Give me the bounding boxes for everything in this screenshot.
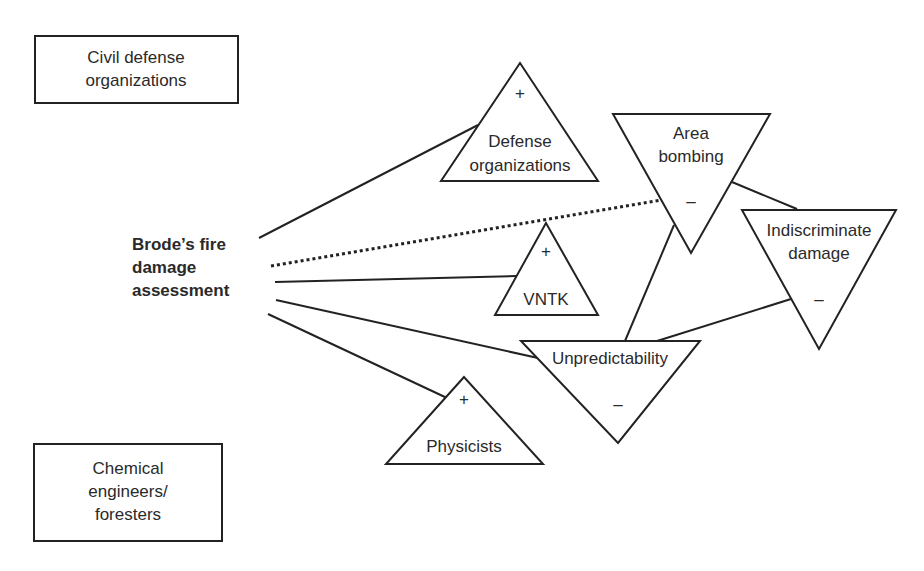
- central-label-line: damage: [132, 258, 196, 277]
- central-label-line: Brode’s fire: [132, 235, 226, 254]
- node-vntk: + VNTK: [495, 223, 598, 315]
- minus-sign-icon: –: [613, 395, 623, 414]
- central-label-line: assessment: [132, 281, 230, 300]
- box-label-line: Chemical: [93, 459, 164, 478]
- plus-sign-icon: +: [515, 84, 525, 103]
- actor-network-diagram: Civil defense organizations Chemical eng…: [0, 0, 924, 571]
- node-label-line: organizations: [469, 156, 570, 175]
- edge-central-physicists: [268, 314, 447, 398]
- box-label-line: foresters: [95, 505, 161, 524]
- node-unpredictability: Unpredictability –: [521, 341, 700, 443]
- box-label-line: organizations: [85, 71, 186, 90]
- node-label-line: Physicists: [426, 437, 502, 456]
- node-label-line: Indiscriminate: [767, 221, 872, 240]
- node-label-line: Defense: [488, 132, 551, 151]
- minus-sign-icon: –: [686, 192, 696, 211]
- node-label-line: Area: [673, 124, 709, 143]
- plus-sign-icon: +: [459, 390, 469, 409]
- node-defense-organizations: + Defense organizations: [441, 63, 598, 181]
- edge-central-vntk: [275, 276, 516, 282]
- node-label-line: bombing: [658, 147, 723, 166]
- node-indiscriminate-damage: Indiscriminate damage –: [742, 210, 896, 349]
- edge-indiscriminate-unpredictability: [657, 299, 791, 341]
- box-label-line: engineers/: [88, 482, 168, 501]
- node-label-line: damage: [788, 244, 849, 263]
- central-actor: Brode’s fire damage assessment: [132, 235, 230, 300]
- box-civil-defense: Civil defense organizations: [35, 36, 238, 103]
- box-chemical-engineers: Chemical engineers/ foresters: [34, 444, 222, 541]
- minus-sign-icon: –: [814, 290, 824, 309]
- node-area-bombing: Area bombing –: [613, 114, 770, 253]
- node-label-line: Unpredictability: [552, 349, 669, 368]
- node-label-line: VNTK: [523, 290, 569, 309]
- node-physicists: + Physicists: [386, 377, 543, 464]
- edge-central-area-bombing-dotted: [271, 199, 667, 266]
- edge-area-bombing-unpredictability: [625, 225, 674, 341]
- box-label-line: Civil defense: [87, 48, 184, 67]
- edge-area-bombing-indiscriminate: [732, 182, 797, 209]
- plus-sign-icon: +: [541, 242, 551, 261]
